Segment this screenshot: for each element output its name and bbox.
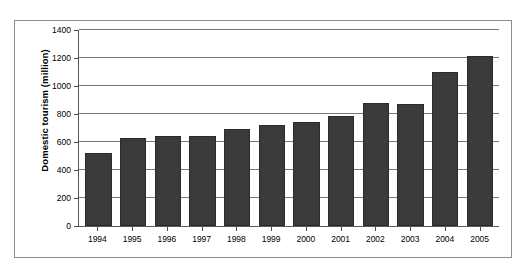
x-tick <box>289 227 324 233</box>
bar[interactable] <box>85 153 111 226</box>
x-tick-mark <box>236 227 237 231</box>
x-tick-mark <box>410 227 411 231</box>
bar-slot <box>289 30 324 226</box>
bar-slot <box>393 30 428 226</box>
x-tick-mark <box>445 227 446 231</box>
bar-slot <box>81 30 116 226</box>
y-tick-label: 1200 <box>52 53 71 63</box>
plot-area: 0200400600800100012001400 <box>78 30 499 227</box>
x-tick-mark <box>167 227 168 231</box>
bar-slot <box>116 30 151 226</box>
x-tick-mark <box>132 227 133 231</box>
x-axis-ticks <box>78 227 499 233</box>
x-tick-label: 1994 <box>80 234 115 244</box>
bar-slot <box>150 30 185 226</box>
x-tick <box>358 227 393 233</box>
bar[interactable] <box>120 138 146 226</box>
x-tick-mark <box>97 227 98 231</box>
x-tick <box>115 227 150 233</box>
x-tick-mark <box>306 227 307 231</box>
y-tick-label: 400 <box>57 165 71 175</box>
x-tick-mark <box>480 227 481 231</box>
bar[interactable] <box>328 116 354 226</box>
bar-slot <box>462 30 497 226</box>
x-tick-label: 2003 <box>393 234 428 244</box>
x-tick <box>323 227 358 233</box>
x-tick-mark <box>341 227 342 231</box>
x-tick-label: 2005 <box>462 234 497 244</box>
bar[interactable] <box>155 136 181 226</box>
y-tick-label: 0 <box>66 221 71 231</box>
x-tick <box>184 227 219 233</box>
y-tick-label: 200 <box>57 193 71 203</box>
x-tick-label: 1996 <box>150 234 185 244</box>
bar-slot <box>254 30 289 226</box>
x-axis-labels: 1994199519961997199819992000200120022003… <box>78 234 499 244</box>
bar[interactable] <box>397 104 423 226</box>
x-tick-label: 2004 <box>428 234 463 244</box>
y-tick-label: 600 <box>57 137 71 147</box>
x-tick-label: 1995 <box>115 234 150 244</box>
y-tick-label: 1400 <box>52 25 71 35</box>
x-tick <box>150 227 185 233</box>
x-tick <box>219 227 254 233</box>
x-tick <box>254 227 289 233</box>
x-tick-label: 1997 <box>184 234 219 244</box>
x-tick <box>428 227 463 233</box>
bar-slot <box>428 30 463 226</box>
x-tick-mark <box>271 227 272 231</box>
bar[interactable] <box>467 56 493 226</box>
y-tick-label: 1000 <box>52 81 71 91</box>
x-tick-mark <box>375 227 376 231</box>
bar[interactable] <box>293 122 319 226</box>
bar[interactable] <box>259 125 285 226</box>
bar-slot <box>358 30 393 226</box>
x-tick-label: 2002 <box>358 234 393 244</box>
x-tick <box>393 227 428 233</box>
bar[interactable] <box>224 129 250 226</box>
bar[interactable] <box>363 103 389 226</box>
bar-slot <box>324 30 359 226</box>
x-tick <box>462 227 497 233</box>
y-tick-label: 800 <box>57 109 71 119</box>
x-tick-label: 1999 <box>254 234 289 244</box>
bars-layer <box>79 30 499 226</box>
x-tick-label: 1998 <box>219 234 254 244</box>
bar[interactable] <box>189 136 215 226</box>
bar[interactable] <box>432 72 458 226</box>
x-tick-mark <box>202 227 203 231</box>
chart-frame: Domestic tourism (million) 0200400600800… <box>14 20 512 258</box>
x-tick-label: 2001 <box>323 234 358 244</box>
bar-slot <box>220 30 255 226</box>
y-axis-title: Domestic tourism (million) <box>39 16 50 206</box>
x-tick-label: 2000 <box>289 234 324 244</box>
bar-slot <box>185 30 220 226</box>
x-tick <box>80 227 115 233</box>
